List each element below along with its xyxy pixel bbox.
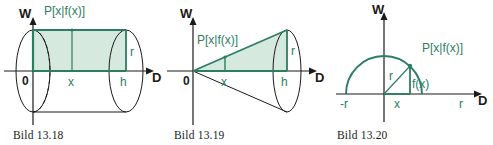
point-label: P[x|f(x)] [197, 33, 238, 47]
w-axis-label: W [372, 2, 385, 17]
x-label: x [68, 75, 74, 89]
figure-board: W D 0 P[x|f(x)] x h r Bild 13.18 [0, 0, 493, 145]
w-axis-label: W [19, 6, 32, 21]
fx-label: f(x) [412, 77, 429, 91]
x-label: x [221, 75, 227, 89]
point-marker [223, 55, 226, 58]
point-marker [408, 64, 412, 68]
radius-line [384, 66, 410, 94]
h-label: h [120, 75, 127, 89]
neg-r-label: -r [340, 97, 348, 111]
origin-label: 0 [183, 74, 190, 88]
r-label: r [130, 45, 134, 59]
cylinder-diagram-svg: W D 0 P[x|f(x)] x h r [0, 0, 165, 145]
r-right-label: r [459, 97, 463, 111]
h-label: h [281, 75, 288, 89]
figure-caption: Bild 13.20 [337, 129, 388, 141]
d-axis-label: D [152, 70, 161, 85]
origin-label: 0 [22, 74, 29, 88]
point-label: P[x|f(x)] [422, 41, 463, 55]
cone-diagram-svg: W D 0 P[x|f(x)] x h r [163, 0, 328, 145]
d-axis-label: D [478, 93, 487, 108]
w-axis-label: W [180, 6, 193, 21]
cylinder-section-fill [33, 30, 126, 71]
figure-cylinder: W D 0 P[x|f(x)] x h r Bild 13.18 [0, 0, 165, 145]
figure-caption: Bild 13.18 [13, 129, 64, 141]
figure-caption: Bild 13.19 [174, 129, 225, 141]
r-label: r [291, 44, 295, 58]
point-label: P[x|f(x)] [44, 4, 85, 18]
d-axis-label: D [315, 70, 324, 85]
figure-cone: W D 0 P[x|f(x)] x h r Bild 13.19 [163, 0, 328, 145]
x-label: x [394, 97, 400, 111]
point-marker [70, 28, 73, 31]
figure-semicircle: W D P[x|f(x)] r f(x) -r x r Bild 13.20 [326, 0, 493, 145]
semicircle-diagram-svg: W D P[x|f(x)] r f(x) -r x r [326, 0, 493, 145]
r-label: r [389, 69, 393, 83]
